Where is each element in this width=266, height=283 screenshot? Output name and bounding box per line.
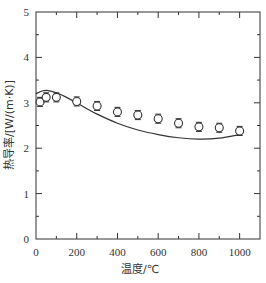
x-tick-label: 1000: [229, 246, 252, 258]
y-tick-label: 2: [24, 142, 30, 154]
x-tick-label: 800: [191, 246, 208, 258]
x-tick-label: 400: [109, 246, 126, 258]
data-point: [195, 122, 203, 131]
data-point: [236, 126, 244, 135]
y-tick-label: 0: [24, 233, 30, 245]
data-point: [215, 123, 223, 132]
y-tick-label: 1: [24, 188, 30, 200]
data-point: [113, 107, 121, 116]
chart: 02004006008001000 012345 温度/℃ 热导率/[W/(m·…: [0, 0, 266, 283]
y-tick-label: 4: [24, 51, 30, 63]
x-axis-title: 温度/℃: [121, 262, 159, 276]
x-tick-label: 0: [33, 246, 39, 258]
data-point: [134, 111, 142, 120]
y-tick-label: 5: [24, 6, 30, 18]
y-axis-tick-labels: 012345: [24, 6, 30, 245]
data-point: [154, 114, 162, 123]
data-point: [93, 101, 101, 110]
y-tick-label: 3: [24, 97, 30, 109]
data-point: [175, 119, 183, 128]
y-axis-ticks: [36, 35, 260, 217]
data-points: [36, 93, 244, 136]
plot-frame: [36, 12, 260, 239]
data-point: [73, 97, 81, 106]
data-point: [42, 93, 50, 102]
data-point: [52, 93, 60, 102]
x-tick-label: 200: [68, 246, 85, 258]
x-axis-ticks: [56, 12, 239, 239]
x-tick-label: 600: [150, 246, 167, 258]
x-axis-tick-labels: 02004006008001000: [33, 246, 251, 258]
y-axis-title: 热导率/[W/(m·K)]: [2, 80, 16, 170]
